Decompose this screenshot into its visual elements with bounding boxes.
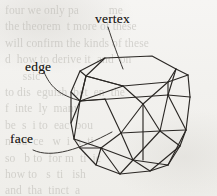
edge-mid-band-2 [123, 86, 143, 104]
edge-front-diag-6 [121, 131, 160, 133]
edge-front-diag-3 [101, 133, 121, 148]
edge-mid-band-9 [168, 95, 190, 97]
edge-right-inner-5 [168, 130, 186, 165]
edge-front-diag-5 [143, 104, 160, 131]
edge-right-inner-4 [160, 131, 180, 146]
polyhedron-wireframe [71, 56, 190, 174]
label-face: face [10, 132, 33, 146]
figure-page: four we only pa me the theorem t more of… [0, 0, 217, 196]
edge-right-inner-2 [160, 95, 168, 131]
edge-front-diag-2 [121, 104, 143, 133]
label-edge: edge [25, 60, 51, 74]
edge-right-inner-1 [168, 95, 186, 130]
edge-bottom-3 [120, 160, 133, 174]
edge-bottom-7 [150, 146, 180, 171]
edge-left-inner-2 [74, 101, 80, 139]
edge-mid-band-3 [143, 82, 168, 104]
vertex-leader-line [108, 27, 123, 69]
edge-upper-left-4 [86, 76, 123, 86]
edge-upper-left-3 [80, 58, 105, 71]
edge-upper-left-2 [80, 76, 86, 101]
edge-right-inner-3 [160, 130, 186, 131]
edge-bottom-5 [80, 148, 96, 165]
polyhedron-figure [0, 0, 217, 196]
edge-mid-band-6 [188, 75, 190, 97]
edge-front-diag-1 [105, 99, 121, 133]
edge-front-diag-7 [133, 131, 160, 160]
label-vertex: vertex [95, 12, 130, 26]
edge-mid-band-5 [176, 69, 188, 75]
